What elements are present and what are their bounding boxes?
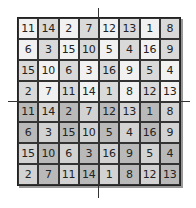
grid-cell: 2 [59,18,79,39]
grid-cell: 10 [38,60,58,81]
grid-cell: 2 [59,102,79,123]
grid-cell: 8 [160,18,180,39]
grid-cell: 6 [18,122,38,143]
grid-cell: 7 [38,81,58,102]
grid-cell: 1 [99,81,119,102]
grid-cell: 10 [79,39,99,60]
grid-cell: 4 [160,143,180,164]
grid-cell: 10 [79,122,99,143]
grid-cell: 11 [18,18,38,39]
grid-cell: 1 [140,18,160,39]
grid-cell: 4 [119,122,139,143]
grid-cell: 15 [18,143,38,164]
grid-cell: 14 [38,102,58,123]
grid-cell: 4 [160,60,180,81]
grid-cell: 14 [79,164,99,185]
grid-cell: 3 [79,60,99,81]
grid-cell: 11 [59,81,79,102]
horizontal-axis-line [8,101,190,102]
grid-cell: 6 [18,39,38,60]
grid-cell: 13 [119,18,139,39]
vertical-axis-line [98,8,99,198]
grid-cell: 5 [140,143,160,164]
grid-cell: 9 [119,143,139,164]
grid-cell: 8 [119,81,139,102]
grid-cell: 7 [79,102,99,123]
grid-cell: 1 [140,102,160,123]
grid-cell: 9 [160,39,180,60]
grid-cell: 5 [99,39,119,60]
grid-cell: 16 [140,122,160,143]
grid-cell: 1 [99,164,119,185]
grid-cell: 13 [160,81,180,102]
grid-cell: 10 [38,143,58,164]
grid-cell: 4 [119,39,139,60]
grid-cell: 14 [79,81,99,102]
grid-cell: 9 [119,60,139,81]
grid-cell: 12 [140,81,160,102]
grid-cell: 2 [18,164,38,185]
grid-cell: 14 [38,18,58,39]
grid-cell: 16 [99,143,119,164]
grid-cell: 13 [119,102,139,123]
grid-cell: 12 [140,164,160,185]
grid-cell: 9 [160,122,180,143]
grid-cell: 8 [119,164,139,185]
grid-cell: 16 [99,60,119,81]
grid-cell: 6 [59,143,79,164]
grid-cell: 12 [99,18,119,39]
grid-cell: 5 [140,60,160,81]
grid-cell: 15 [18,60,38,81]
grid-cell: 15 [59,39,79,60]
grid-cell: 6 [59,60,79,81]
grid-cell: 3 [38,39,58,60]
grid-cell: 16 [140,39,160,60]
grid-cell: 7 [38,164,58,185]
grid-cell: 15 [59,122,79,143]
grid-cell: 11 [59,164,79,185]
grid-cell: 12 [99,102,119,123]
grid-cell: 7 [79,18,99,39]
grid-cell: 13 [160,164,180,185]
grid-cell: 5 [99,122,119,143]
grid-cell: 3 [79,143,99,164]
grid-cell: 11 [18,102,38,123]
grid-cell: 2 [18,81,38,102]
grid-cell: 8 [160,102,180,123]
grid-cell: 3 [38,122,58,143]
